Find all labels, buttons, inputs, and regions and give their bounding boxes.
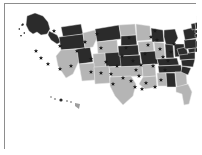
state-delaware[interactable] bbox=[195, 48, 197, 52]
state-new-mexico[interactable] bbox=[94, 66, 110, 84]
map-svg[interactable] bbox=[5, 4, 197, 150]
state-pennsylvania[interactable] bbox=[184, 39, 197, 49]
state-alabama[interactable] bbox=[166, 73, 176, 87]
state-minnesota[interactable] bbox=[136, 24, 151, 41]
state-iowa[interactable] bbox=[138, 41, 154, 52]
state-north-dakota[interactable] bbox=[119, 24, 136, 36]
state-indiana[interactable] bbox=[165, 44, 174, 58]
state-wyoming[interactable] bbox=[97, 40, 118, 54]
state-nebraska[interactable] bbox=[118, 45, 139, 56]
state-oregon[interactable] bbox=[59, 34, 85, 50]
us-choropleth-map[interactable] bbox=[5, 4, 197, 150]
state-north-carolina[interactable] bbox=[181, 59, 195, 67]
state-massachusetts[interactable] bbox=[195, 30, 197, 33]
figure-frame bbox=[4, 3, 196, 149]
state-kansas[interactable] bbox=[120, 55, 141, 67]
state-nevada[interactable] bbox=[77, 47, 93, 64]
state-maryland[interactable] bbox=[188, 48, 195, 53]
state-new-jersey[interactable] bbox=[196, 41, 197, 47]
state-arizona[interactable] bbox=[79, 63, 95, 81]
state-connecticut[interactable] bbox=[195, 34, 197, 37]
